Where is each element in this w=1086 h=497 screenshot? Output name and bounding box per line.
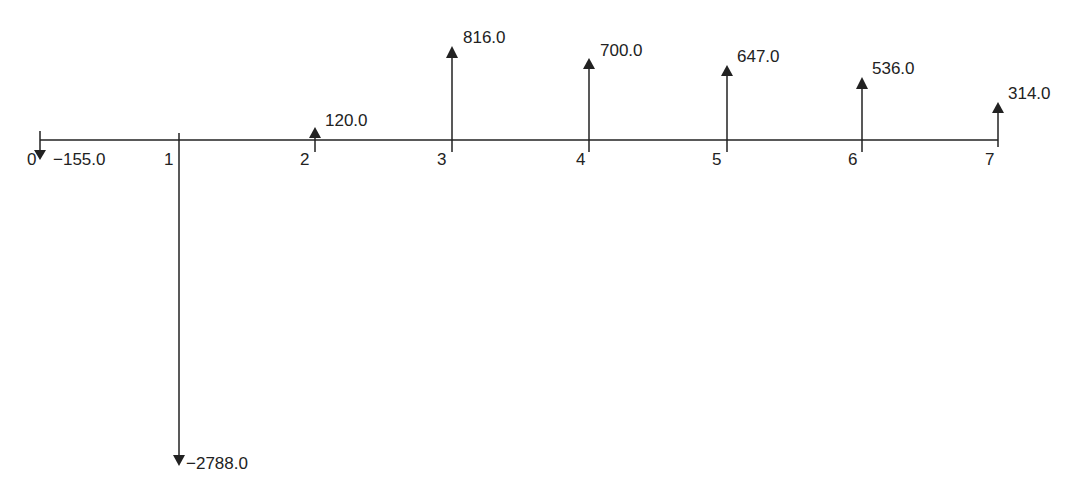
arrow-up-icon (721, 65, 733, 76)
value-label: 816.0 (463, 28, 506, 47)
cash-flow-period-5: 5 647.0 (712, 47, 780, 169)
value-label: −2788.0 (186, 454, 248, 473)
arrow-up-icon (583, 58, 595, 69)
arrow-down-icon (173, 455, 185, 466)
value-label: −155.0 (53, 150, 105, 169)
cash-flow-period-0: 0 −155.0 (27, 131, 105, 169)
period-label: 4 (576, 150, 585, 169)
period-label: 5 (712, 150, 721, 169)
arrow-up-icon (856, 77, 868, 89)
value-label: 700.0 (600, 41, 643, 60)
value-label: 647.0 (737, 47, 780, 66)
cash-flow-period-1: 1 −2788.0 (164, 133, 248, 473)
value-label: 120.0 (325, 111, 368, 130)
cash-flow-period-3: 3 816.0 (437, 28, 506, 169)
arrow-up-icon (992, 102, 1004, 113)
value-label: 314.0 (1008, 84, 1051, 103)
arrow-up-icon (446, 46, 458, 58)
period-label: 6 (848, 150, 857, 169)
cash-flow-period-6: 6 536.0 (848, 59, 915, 169)
period-label: 0 (27, 150, 36, 169)
cash-flow-period-4: 4 700.0 (576, 41, 643, 169)
period-label: 1 (164, 150, 173, 169)
period-label: 2 (300, 150, 309, 169)
period-label: 7 (985, 150, 994, 169)
arrow-up-icon (309, 127, 321, 138)
period-label: 3 (437, 150, 446, 169)
cash-flow-diagram: 0 −155.0 1 −2788.0 2 120.0 3 816.0 4 700… (0, 0, 1086, 497)
cash-flow-period-7: 7 314.0 (985, 84, 1051, 169)
value-label: 536.0 (872, 59, 915, 78)
